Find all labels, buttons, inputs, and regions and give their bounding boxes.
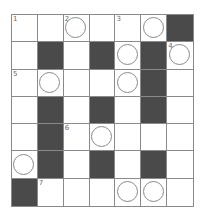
cropped-header-text <box>40 0 160 6</box>
white-cell[interactable] <box>115 151 141 178</box>
black-cell <box>141 151 167 178</box>
circled-cell[interactable] <box>115 42 141 69</box>
white-cell[interactable] <box>167 151 193 178</box>
white-cell[interactable] <box>115 97 141 124</box>
white-cell[interactable] <box>115 124 141 151</box>
black-cell <box>167 15 193 42</box>
white-cell[interactable] <box>38 15 64 42</box>
circle-icon <box>117 72 138 93</box>
circle-icon <box>65 17 86 38</box>
circled-cell[interactable] <box>90 124 116 151</box>
white-cell[interactable] <box>64 151 90 178</box>
circled-cell[interactable] <box>38 70 64 97</box>
clue-number: 6 <box>65 124 69 132</box>
circle-icon <box>143 17 164 38</box>
black-cell <box>38 97 64 124</box>
circled-cell[interactable] <box>12 151 38 178</box>
white-cell[interactable] <box>141 124 167 151</box>
clue-number: 3 <box>116 15 120 23</box>
circle-icon <box>91 126 112 147</box>
white-cell[interactable] <box>64 70 90 97</box>
circled-cell[interactable] <box>115 70 141 97</box>
white-cell[interactable] <box>12 42 38 69</box>
clue-number: 1 <box>13 15 17 23</box>
black-cell <box>38 42 64 69</box>
circled-cell[interactable] <box>141 15 167 42</box>
white-cell[interactable] <box>90 179 116 206</box>
white-cell[interactable] <box>167 70 193 97</box>
white-cell[interactable] <box>167 124 193 151</box>
white-cell[interactable] <box>90 15 116 42</box>
white-cell[interactable]: 7 <box>38 179 64 206</box>
white-cell[interactable] <box>167 97 193 124</box>
white-cell[interactable] <box>12 124 38 151</box>
circled-cell[interactable]: 2 <box>64 15 90 42</box>
white-cell[interactable]: 6 <box>64 124 90 151</box>
black-cell <box>90 97 116 124</box>
circle-icon <box>117 44 138 65</box>
black-cell <box>141 97 167 124</box>
white-cell[interactable] <box>64 42 90 69</box>
circle-icon <box>39 72 60 93</box>
clue-number: 7 <box>39 179 43 187</box>
crossword-grid: 1234567 <box>11 14 194 207</box>
circle-icon <box>143 181 164 202</box>
circle-icon <box>169 44 190 65</box>
white-cell[interactable]: 5 <box>12 70 38 97</box>
white-cell[interactable] <box>167 179 193 206</box>
circled-cell[interactable] <box>141 179 167 206</box>
black-cell <box>38 151 64 178</box>
white-cell[interactable] <box>12 97 38 124</box>
black-cell <box>12 179 38 206</box>
circle-icon <box>117 181 138 202</box>
circled-cell[interactable] <box>115 179 141 206</box>
white-cell[interactable] <box>90 70 116 97</box>
black-cell <box>38 124 64 151</box>
circled-cell[interactable]: 4 <box>167 42 193 69</box>
white-cell[interactable]: 1 <box>12 15 38 42</box>
circle-icon <box>13 154 34 175</box>
black-cell <box>141 42 167 69</box>
white-cell[interactable] <box>64 179 90 206</box>
black-cell <box>141 70 167 97</box>
black-cell <box>90 151 116 178</box>
white-cell[interactable] <box>64 97 90 124</box>
black-cell <box>90 42 116 69</box>
clue-number: 5 <box>13 70 17 78</box>
white-cell[interactable]: 3 <box>115 15 141 42</box>
